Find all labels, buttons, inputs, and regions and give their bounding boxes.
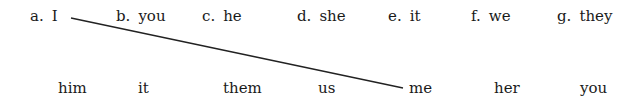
- top-item-g: g.they: [557, 7, 612, 25]
- item-word: he: [223, 7, 242, 25]
- item-word: it: [410, 7, 421, 25]
- bottom-item-5: me: [409, 79, 432, 97]
- top-item-a: a.I: [30, 7, 58, 25]
- bottom-item-4: us: [318, 79, 335, 97]
- top-item-e: e.it: [388, 7, 420, 25]
- item-letter: g.: [557, 7, 571, 25]
- item-letter: c.: [202, 7, 215, 25]
- item-word: you: [138, 7, 165, 25]
- item-word: they: [579, 7, 612, 25]
- bottom-item-2: it: [138, 79, 149, 97]
- bottom-item-7: you: [580, 79, 607, 97]
- item-letter: a.: [30, 7, 44, 25]
- top-item-b: b.you: [116, 7, 166, 25]
- item-word: we: [489, 7, 511, 25]
- top-item-f: f.we: [471, 7, 511, 25]
- item-word: I: [52, 7, 58, 25]
- item-word: she: [319, 7, 345, 25]
- item-letter: e.: [388, 7, 402, 25]
- bottom-item-1: him: [58, 79, 87, 97]
- top-item-c: c.he: [202, 7, 242, 25]
- top-item-d: d.she: [297, 7, 346, 25]
- bottom-item-6: her: [494, 79, 520, 97]
- bottom-item-3: them: [223, 79, 262, 97]
- item-letter: f.: [471, 7, 481, 25]
- item-letter: b.: [116, 7, 130, 25]
- item-letter: d.: [297, 7, 311, 25]
